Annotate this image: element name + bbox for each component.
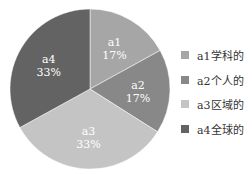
slice-name-label: a1 <box>108 36 122 49</box>
slice-name-label: a4 <box>42 53 56 66</box>
legend-item-a3: a3区域的 <box>181 92 244 117</box>
legend-swatch <box>181 100 189 108</box>
pie-chart: a117%a217%a333%a433% <box>0 0 180 174</box>
legend-swatch <box>181 51 189 59</box>
legend-item-a1: a1学科的 <box>181 43 244 68</box>
legend-label: a4全球的 <box>197 121 244 137</box>
legend-item-a2: a2个人的 <box>181 68 244 93</box>
legend-swatch <box>181 125 189 133</box>
slice-percent-label: 17% <box>126 92 150 105</box>
legend-item-a4: a4全球的 <box>181 117 244 142</box>
legend: a1学科的 a2个人的 a3区域的 a4全球的 <box>181 43 244 141</box>
slice-percent-label: 33% <box>76 138 100 151</box>
legend-label: a2个人的 <box>197 72 244 88</box>
slice-name-label: a3 <box>82 125 96 138</box>
legend-label: a3区域的 <box>197 96 244 112</box>
legend-swatch <box>181 76 189 84</box>
slice-percent-label: 33% <box>36 66 60 79</box>
legend-label: a1学科的 <box>197 47 244 63</box>
slice-name-label: a2 <box>131 79 145 92</box>
slice-percent-label: 17% <box>102 49 126 62</box>
